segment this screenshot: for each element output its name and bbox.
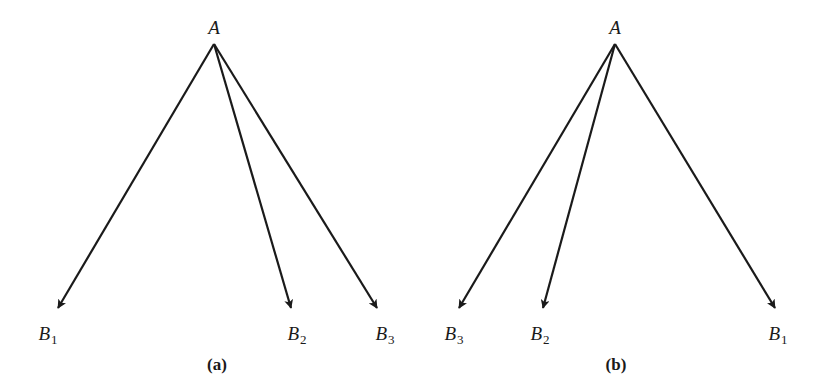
node-a-target-label-3: B3 (375, 324, 394, 346)
arrow-b-to-b3 (459, 44, 615, 308)
node-b-target-label-3: B1 (768, 324, 787, 346)
node-a-source-label: A (208, 18, 220, 37)
diagram-stage: A B1 B2 B3 (a) A B3 B2 B1 (b) (0, 0, 821, 388)
caption-b: (b) (606, 356, 627, 373)
arrows-layer (0, 0, 821, 388)
node-a-target-label-2: B2 (287, 324, 306, 346)
arrow-a-to-b3 (214, 44, 377, 308)
node-b-source-label: A (609, 18, 621, 37)
arrow-b-to-b2 (543, 44, 615, 308)
node-b-target-label-2: B2 (530, 324, 549, 346)
arrow-a-to-b2 (214, 44, 291, 308)
node-a-target-label-1: B1 (38, 324, 57, 346)
arrow-a-to-b1 (58, 44, 214, 308)
caption-a: (a) (207, 356, 227, 373)
node-b-target-label-1: B3 (444, 324, 463, 346)
arrow-b-to-b1 (615, 44, 775, 308)
